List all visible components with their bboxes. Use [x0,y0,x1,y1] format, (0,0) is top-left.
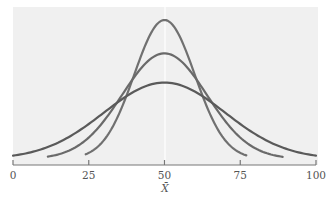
x-tick-label: 25 [82,169,95,181]
x-axis-label: X̄ [160,182,169,194]
x-tick-label: 75 [234,169,247,181]
x-tick-label: 50 [158,169,171,181]
sampling-distribution-chart: 0255075100 X̄ [0,0,335,207]
x-tick-label: 0 [10,169,17,181]
x-tick-label: 100 [306,169,326,181]
